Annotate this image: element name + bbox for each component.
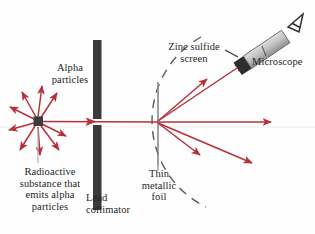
observer-eye-icon: [288, 14, 303, 32]
scattered-alpha-rays: [158, 64, 271, 163]
incident-alpha-beam: [43, 122, 158, 123]
figure-canvas: Alpha particles Radioactive substance th…: [0, 0, 315, 234]
label-radioactive-substance: Radioactive substance that emits alpha p…: [0, 166, 100, 212]
label-alpha-particles: Alpha particles: [36, 62, 104, 85]
label-thin-metallic-foil: Thin metallic foil: [128, 168, 190, 203]
label-microscope: Microscope: [252, 56, 315, 68]
microscope-assembly: [233, 30, 289, 75]
label-zinc-sulfide-screen: Zinc sulfide screen: [158, 41, 230, 64]
radioactive-source: [34, 117, 44, 127]
